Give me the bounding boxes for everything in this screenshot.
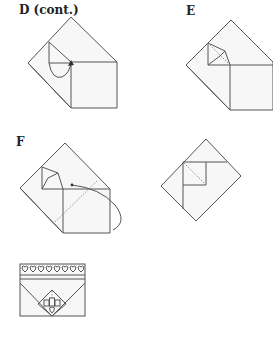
step-d-diagram	[28, 17, 117, 108]
final-model-diagram	[20, 264, 85, 316]
origami-diagram-canvas	[0, 0, 273, 353]
step-g-diagram	[161, 139, 241, 221]
arrow-start-dot-icon	[71, 184, 74, 187]
step-e-diagram	[186, 20, 273, 110]
step-f-diagram	[20, 143, 121, 233]
